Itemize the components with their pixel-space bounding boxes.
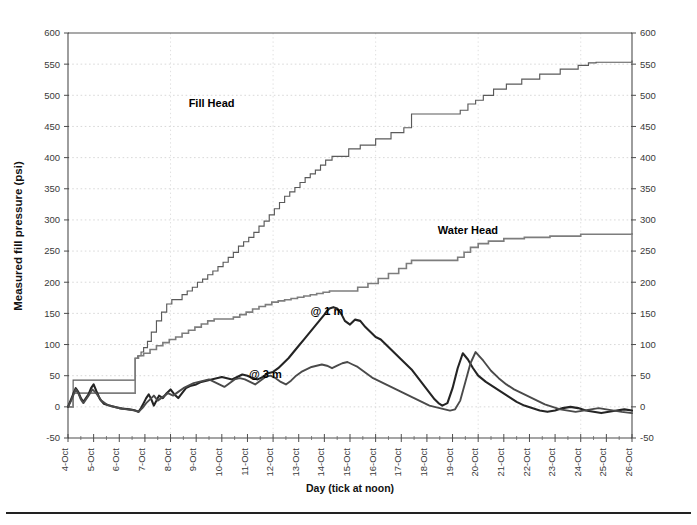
y2-tick-label: 550 [640, 59, 656, 70]
x-tick-label: 14-Oct [315, 448, 326, 477]
annotation-fill-head: Fill Head [189, 97, 235, 109]
x-tick-label: 24-Oct [572, 448, 583, 477]
x-tick-label: 23-Oct [546, 448, 557, 477]
y2-tick-label: -50 [640, 432, 654, 443]
x-tick-label: 18-Oct [418, 448, 429, 477]
x-axis-title: Day (tick at noon) [306, 482, 394, 494]
y-axis-title: Measured fill pressure (psi) [12, 161, 24, 311]
x-tick-label: 9-Oct [187, 448, 198, 472]
y-axis-tick-labels: -50050100150200250300350400450500550600 [44, 27, 60, 443]
y-tick-label: -50 [46, 432, 60, 443]
y2-tick-label: 350 [640, 183, 656, 194]
x-tick-label: 6-Oct [110, 448, 121, 472]
y2-tick-label: 50 [640, 370, 651, 381]
y-tick-label: 250 [44, 245, 60, 256]
x-tick-label: 16-Oct [367, 448, 378, 477]
series-line-water-head [68, 233, 632, 407]
y-tick-label: 100 [44, 339, 60, 350]
y-tick-label: 50 [49, 370, 60, 381]
x-tick-label: 15-Oct [341, 448, 352, 477]
y2-tick-label: 400 [640, 152, 656, 163]
plot-frame [68, 33, 632, 438]
chart-canvas: -50050100150200250300350400450500550600 … [0, 0, 697, 500]
y2-tick-label: 150 [640, 308, 656, 319]
x-tick-label: 8-Oct [162, 448, 173, 472]
y-tick-label: 400 [44, 152, 60, 163]
y-tick-label: 600 [44, 27, 60, 38]
annotation-3-m: @ 3 m [249, 368, 282, 380]
y-tick-label: 450 [44, 121, 60, 132]
y-tick-label: 0 [55, 401, 60, 412]
x-tick-label: 10-Oct [213, 448, 224, 477]
x-axis-tick-labels: 4-Oct5-Oct6-Oct7-Oct8-Oct9-Oct10-Oct11-O… [59, 448, 634, 477]
y2-tick-label: 200 [640, 277, 656, 288]
grid-layer [68, 33, 632, 438]
y2-tick-label: 0 [640, 401, 645, 412]
x-tick-label: 5-Oct [85, 448, 96, 472]
y-tick-label: 200 [44, 277, 60, 288]
x-tick-label: 25-Oct [597, 448, 608, 477]
x-tick-label: 17-Oct [392, 448, 403, 477]
x-tick-label: 13-Oct [290, 448, 301, 477]
y-tick-label: 500 [44, 90, 60, 101]
y2-tick-label: 450 [640, 121, 656, 132]
y2-tick-label: 250 [640, 245, 656, 256]
y-tick-label: 350 [44, 183, 60, 194]
y-tick-label: 550 [44, 59, 60, 70]
footer-divider-rule [6, 512, 691, 514]
y2-tick-label: 600 [640, 27, 656, 38]
x-tick-label: 26-Oct [623, 448, 634, 477]
x-tick-label: 11-Oct [239, 448, 250, 476]
chart-figure-root: -50050100150200250300350400450500550600 … [0, 0, 697, 525]
pressure-vs-day-line-chart: -50050100150200250300350400450500550600 … [0, 0, 697, 500]
series-annotations-layer: Fill HeadWater Head@ 1 m@ 3 m [189, 97, 498, 380]
y2-tick-label: 300 [640, 214, 656, 225]
annotation-1-m: @ 1 m [311, 305, 344, 317]
series-line-fill-head [68, 60, 632, 406]
secondary-y-axis-tick-labels: -50050100150200250300350400450500550600 [640, 27, 656, 443]
x-tick-label: 4-Oct [59, 448, 70, 472]
x-tick-label: 21-Oct [495, 448, 506, 477]
x-tick-label: 22-Oct [521, 448, 532, 477]
x-tick-label: 12-Oct [264, 448, 275, 477]
data-series-layer [68, 60, 632, 413]
y-tick-label: 150 [44, 308, 60, 319]
y2-tick-label: 100 [640, 339, 656, 350]
y-tick-label: 300 [44, 214, 60, 225]
x-tick-label: 7-Oct [136, 448, 147, 472]
x-tick-label: 20-Oct [469, 448, 480, 477]
annotation-water-head: Water Head [438, 224, 498, 236]
x-tick-label: 19-Oct [444, 448, 455, 477]
y2-tick-label: 500 [640, 90, 656, 101]
